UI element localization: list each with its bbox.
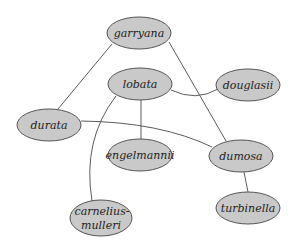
node-label: lobata (123, 78, 158, 91)
edge-garryana-dumosa (169, 42, 226, 141)
node-turbinella: turbinella (216, 192, 280, 224)
edge-garryana-durata (58, 44, 112, 109)
edges (58, 42, 248, 201)
node-dumosa: dumosa (209, 140, 273, 172)
node-label: dumosa (219, 150, 262, 163)
node-label: durata (31, 119, 68, 132)
node-label: douglasii (223, 79, 274, 92)
node-lobata: lobata (108, 68, 172, 100)
species-network-diagram: garryana lobata douglasii durata engelma… (0, 0, 298, 245)
node-label: garryana (114, 27, 165, 40)
node-douglasii: douglasii (216, 69, 280, 101)
node-engelmannii: engelmannii (106, 139, 175, 171)
edge-dumosa-turbinella (244, 172, 248, 192)
edge-lobata-douglasii (171, 89, 218, 96)
node-label: turbinella (221, 202, 276, 215)
node-garryana: garryana (107, 17, 171, 49)
node-carnelius-mulleri: carnelius- mulleri (70, 200, 132, 236)
node-label-line1: carnelius- (74, 205, 129, 218)
node-durata: durata (17, 109, 81, 141)
diagram-svg: garryana lobata douglasii durata engelma… (0, 0, 298, 245)
node-label-line2: mulleri (81, 219, 121, 232)
node-label: engelmannii (106, 149, 175, 162)
